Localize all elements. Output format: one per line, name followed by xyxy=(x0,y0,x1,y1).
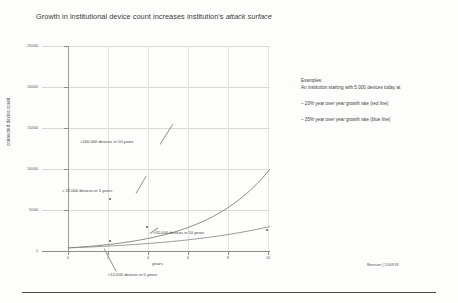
chart-plot-area: 250000 200000 150000 100000 50000 0 0 2 … xyxy=(42,46,270,252)
x-tick-label: 4 xyxy=(147,256,149,260)
chart-y-axis-line xyxy=(68,46,69,252)
y-tick-label: 0 xyxy=(0,249,38,253)
gridline-horizontal xyxy=(42,128,270,129)
annotation-22k-devices: > 22,000 devices in 5 years xyxy=(62,188,112,193)
slide-footer-attribution: Benson | 100918 xyxy=(367,262,399,267)
gridline-vertical xyxy=(148,46,149,252)
slide-canvas: Growth in institutional device count inc… xyxy=(0,0,458,303)
gridline-horizontal xyxy=(42,169,270,170)
annotation-12k-devices: >12,000 devices in 5 years xyxy=(108,272,157,277)
examples-text-block: Examples: An institution starting with 5… xyxy=(301,77,451,123)
x-tick-mark xyxy=(68,252,69,255)
x-tick-mark xyxy=(268,252,269,255)
x-tick-mark xyxy=(148,252,149,255)
gridline-vertical xyxy=(188,46,189,252)
x-tick-label: 6 xyxy=(187,256,189,260)
gridline-vertical xyxy=(108,46,109,252)
x-tick-label: 0 xyxy=(67,256,69,260)
page-title-main: Growth in institutional device count inc… xyxy=(36,12,226,21)
chart-y-axis-title: connected device count xyxy=(6,98,11,146)
chart-x-axis-line xyxy=(42,251,270,252)
data-point-marker xyxy=(109,198,111,200)
gridline-vertical xyxy=(228,46,229,252)
y-tick-label: 150000 xyxy=(0,126,38,130)
y-tick-mark xyxy=(64,87,68,88)
gridline-horizontal xyxy=(42,46,270,47)
annotation-100k-devices: >100,000 devices in 10 years xyxy=(80,139,134,144)
y-tick-mark xyxy=(64,46,68,47)
y-tick-mark xyxy=(64,128,68,129)
data-point-marker xyxy=(109,240,111,242)
annotation-31k-devices: >31,000 devices in 10 years xyxy=(153,230,204,235)
gridline-vertical xyxy=(268,46,269,252)
y-tick-mark xyxy=(64,210,68,211)
data-point-marker xyxy=(266,229,268,231)
y-tick-label: 250000 xyxy=(0,44,38,48)
y-tick-mark xyxy=(64,169,68,170)
y-tick-label: 50000 xyxy=(0,208,38,212)
page-bottom-rule xyxy=(22,292,436,293)
x-tick-label: 10 xyxy=(266,256,270,260)
examples-bullet-20pct: – 20% year over year growth rate (red li… xyxy=(301,100,451,107)
gridline-horizontal xyxy=(42,87,270,88)
x-tick-label: 8 xyxy=(227,256,229,260)
y-tick-label: 200000 xyxy=(0,85,38,89)
examples-subheading: An institution starting with 5,000 devic… xyxy=(301,84,451,91)
gridline-horizontal xyxy=(42,210,270,211)
chart-x-axis-title: years xyxy=(152,261,163,266)
y-tick-label: 100000 xyxy=(0,167,38,171)
examples-heading: Examples: xyxy=(301,77,451,84)
x-tick-mark xyxy=(188,252,189,255)
page-title-italic: attack surface xyxy=(226,12,272,21)
page-title: Growth in institutional device count inc… xyxy=(36,12,336,21)
x-tick-mark xyxy=(228,252,229,255)
examples-bullet-35pct: – 35% year over year growth rate (blue l… xyxy=(301,116,451,123)
data-point-marker xyxy=(146,226,148,228)
